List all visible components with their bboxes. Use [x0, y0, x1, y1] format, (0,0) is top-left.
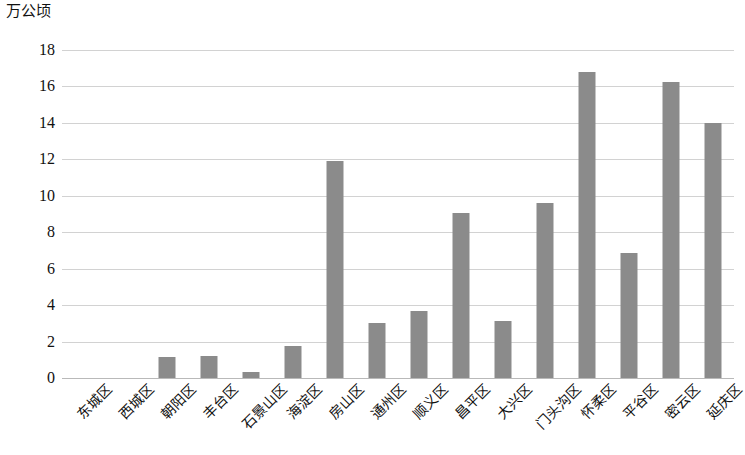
- bar-slot: [230, 50, 272, 378]
- bar: [453, 213, 470, 378]
- y-axis-tick-label: 14: [39, 115, 55, 131]
- bar: [243, 372, 260, 378]
- x-axis-tick: 门头沟区: [524, 380, 566, 455]
- bar: [537, 203, 554, 378]
- bar-slot: [398, 50, 440, 378]
- y-axis-tick-label: 8: [47, 224, 55, 240]
- y-axis-tick-label: 0: [47, 370, 55, 386]
- bar: [285, 346, 302, 378]
- x-axis-tick: 密云区: [650, 380, 692, 455]
- bar-slot: [524, 50, 566, 378]
- bar-slot: [146, 50, 188, 378]
- axis-baseline: 0: [62, 378, 734, 379]
- y-axis-unit-label: 万公顷: [6, 2, 51, 20]
- plot-area: 181614121086420: [62, 50, 734, 378]
- bar-slot: [314, 50, 356, 378]
- bar-slot: [104, 50, 146, 378]
- bar: [159, 357, 176, 378]
- x-axis-tick: 朝阳区: [146, 380, 188, 455]
- bar: [705, 123, 722, 378]
- y-axis-tick-label: 18: [39, 42, 55, 58]
- x-axis-tick: 西城区: [104, 380, 146, 455]
- bar-slot: [650, 50, 692, 378]
- bar-series: [62, 50, 734, 378]
- y-axis-tick-label: 4: [47, 297, 55, 313]
- x-axis-tick: 通州区: [356, 380, 398, 455]
- bar-slot: [440, 50, 482, 378]
- bar-slot: [62, 50, 104, 378]
- bar: [327, 161, 344, 378]
- bar: [201, 356, 218, 378]
- x-axis-tick: 顺义区: [398, 380, 440, 455]
- bar: [663, 82, 680, 378]
- x-axis-tick: 大兴区: [482, 380, 524, 455]
- x-axis-tick-label: 延庆区: [704, 382, 745, 423]
- x-axis-tick: 丰台区: [188, 380, 230, 455]
- x-axis-tick: 昌平区: [440, 380, 482, 455]
- bar-slot: [482, 50, 524, 378]
- y-axis-tick-label: 16: [39, 78, 55, 94]
- y-axis-tick-label: 6: [47, 261, 55, 277]
- y-axis-tick-label: 10: [39, 188, 55, 204]
- x-axis-tick: 延庆区: [692, 380, 734, 455]
- bar: [579, 72, 596, 378]
- x-axis-tick: 东城区: [62, 380, 104, 455]
- x-axis-tick: 房山区: [314, 380, 356, 455]
- x-axis-tick: 石景山区: [230, 380, 272, 455]
- bar: [369, 323, 386, 378]
- y-axis-tick-label: 2: [47, 334, 55, 350]
- bar-slot: [272, 50, 314, 378]
- bar-slot: [188, 50, 230, 378]
- x-axis-category-labels: 东城区西城区朝阳区丰台区石景山区海淀区房山区通州区顺义区昌平区大兴区门头沟区怀柔…: [62, 380, 734, 455]
- x-axis-tick: 海淀区: [272, 380, 314, 455]
- bar: [495, 321, 512, 378]
- x-axis-tick: 怀柔区: [566, 380, 608, 455]
- bar-slot: [692, 50, 734, 378]
- bar: [411, 311, 428, 378]
- bar-slot: [566, 50, 608, 378]
- x-axis-tick: 平谷区: [608, 380, 650, 455]
- bar-slot: [356, 50, 398, 378]
- bar: [621, 253, 638, 378]
- y-axis-tick-label: 12: [39, 151, 55, 167]
- bar-slot: [608, 50, 650, 378]
